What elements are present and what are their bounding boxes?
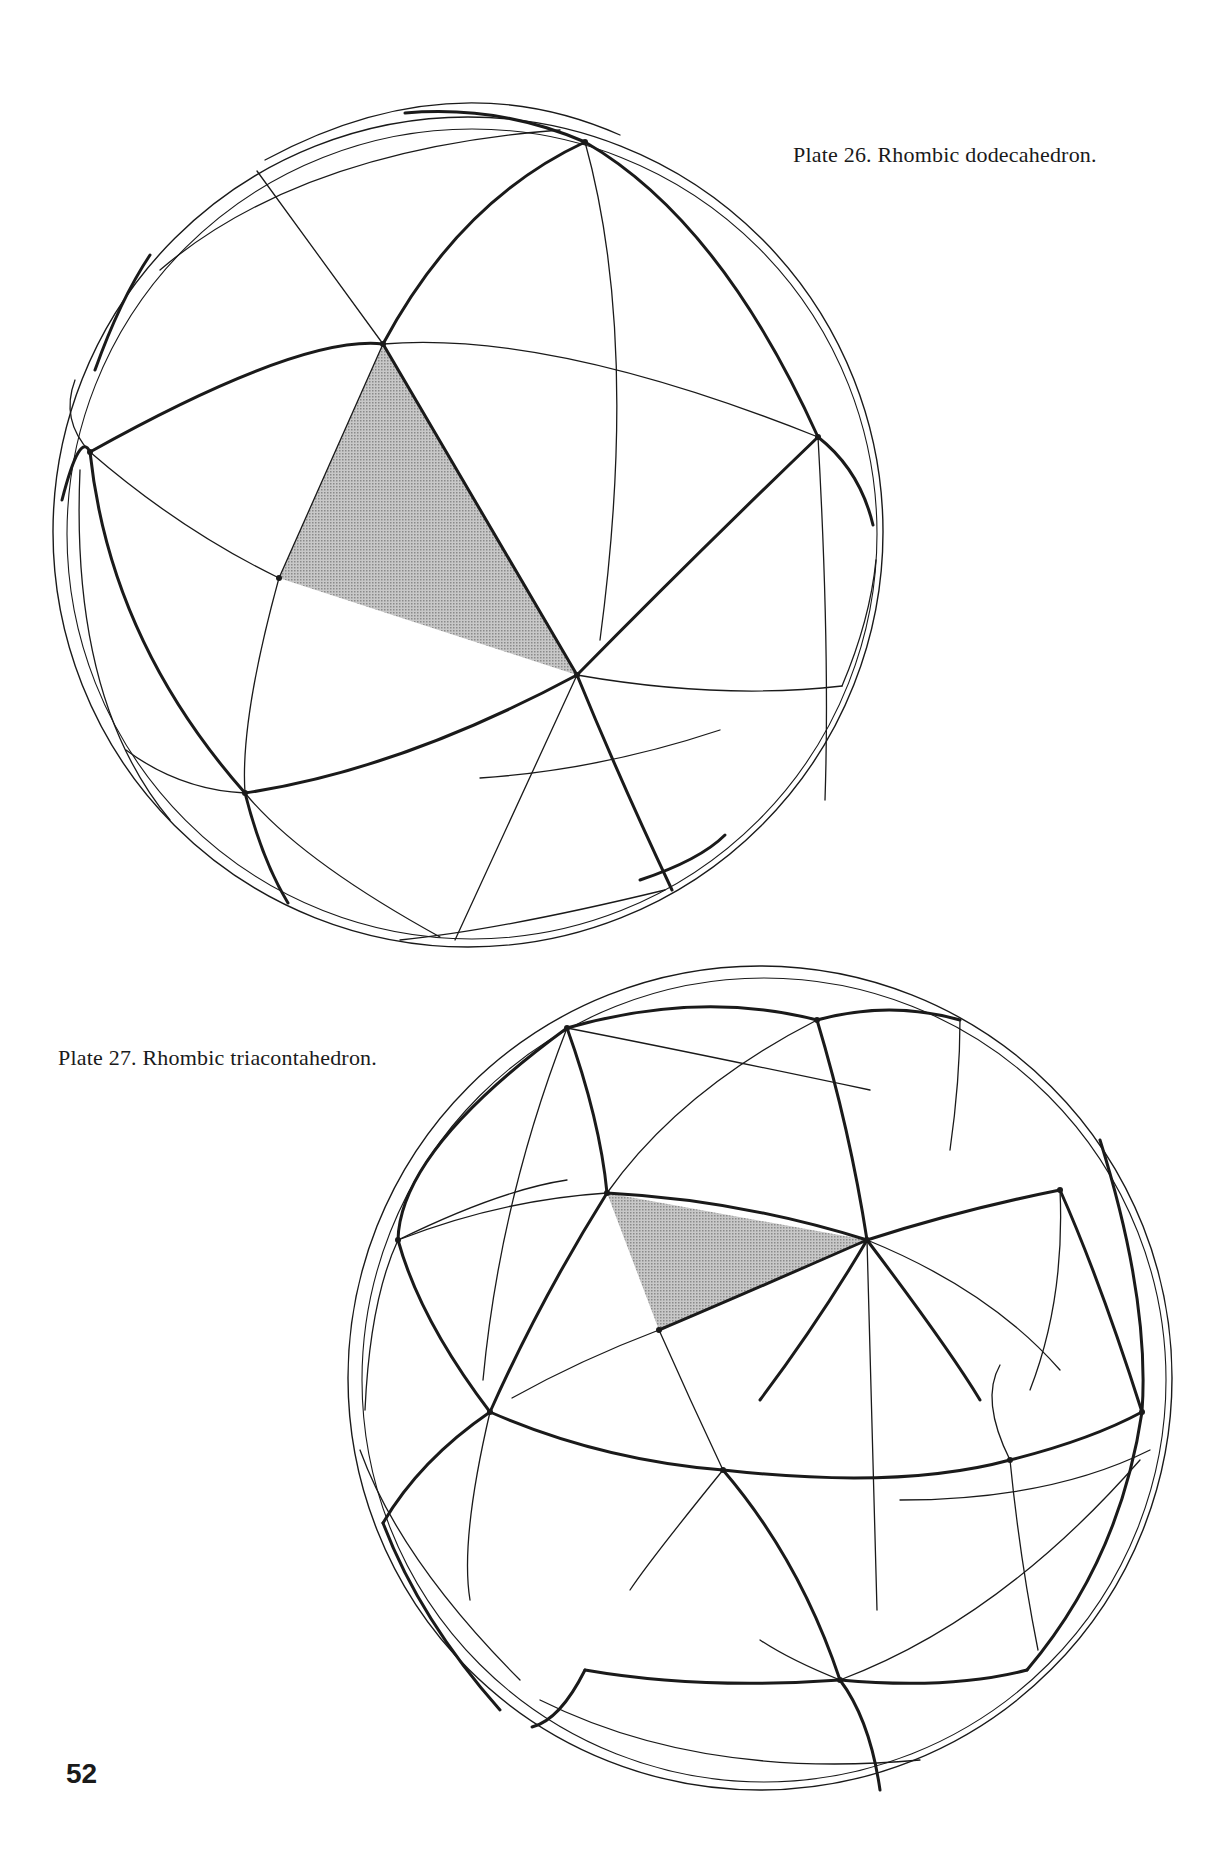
thin-great-circle-arc — [950, 1020, 960, 1150]
polyhedron-edge-arc — [867, 1190, 1060, 1240]
thin-great-circle-arc — [365, 1240, 398, 1410]
polyhedron-edge-arc — [1010, 1412, 1142, 1460]
vertex-dot — [837, 1677, 843, 1683]
vertex-dot — [864, 1237, 870, 1243]
thin-great-circle-arc — [1030, 1190, 1061, 1390]
polyhedron-edge-arc — [640, 835, 725, 880]
sphere-outline — [348, 966, 1172, 1790]
vertex-dot — [656, 1327, 662, 1333]
polyhedron-edge-arc — [840, 1670, 1027, 1683]
vertex-dot — [564, 1025, 570, 1031]
polyhedron-edge-arc — [585, 1670, 840, 1683]
vertex-dot — [815, 434, 821, 440]
thin-great-circle-arc — [455, 675, 577, 940]
vertex-dot — [276, 575, 282, 581]
polyhedron-edge-arc — [817, 1010, 960, 1020]
thin-great-circle-arc — [79, 470, 170, 820]
thin-great-circle-arc — [867, 1240, 1060, 1370]
vertex-dot — [814, 1017, 820, 1023]
thin-great-circle-arc — [540, 1700, 920, 1764]
polyhedron-edge-arc — [245, 675, 577, 793]
vertex-dot — [87, 449, 93, 455]
rhombic-dodecahedron-sphere — [53, 103, 883, 947]
vertex-dot — [720, 1467, 726, 1473]
shaded-face — [607, 1193, 867, 1330]
vertex-dot — [582, 139, 588, 145]
polyhedron-edge-arc — [90, 343, 383, 452]
shaded-face — [279, 344, 577, 675]
thin-great-circle-arc — [659, 1330, 723, 1470]
thin-great-circle-arc — [577, 675, 842, 691]
thin-great-circle-arc — [867, 1240, 877, 1610]
polyhedron-edge-arc — [867, 1240, 980, 1400]
polyhedron-edge-arc — [95, 255, 150, 370]
polyhedron-edge-arc — [398, 1240, 490, 1412]
page-number: 52 — [66, 1758, 97, 1790]
vertex-dot — [574, 672, 580, 678]
thin-great-circle-arc — [70, 380, 90, 452]
polyhedron-edge-arc — [818, 437, 873, 525]
polyhedron-edge-arc — [567, 1028, 607, 1193]
vertex-dot — [1139, 1409, 1145, 1415]
polyhedron-edge-arc — [62, 447, 90, 500]
thin-great-circle-arc — [818, 437, 826, 800]
polyhedron-edge-arc — [567, 1007, 817, 1028]
polyhedron-edge-arc — [383, 1412, 490, 1523]
polyhedron-edge-arc — [532, 1670, 585, 1727]
thin-great-circle-arc — [840, 1460, 1140, 1680]
plate-27-caption: Plate 27. Rhombic triacontahedron. — [58, 1045, 377, 1071]
polyhedron-edge-arc — [577, 675, 672, 890]
thin-great-circle-arc — [244, 578, 279, 793]
polyhedron-edge-arc — [1060, 1190, 1142, 1412]
vertex-dot — [242, 790, 248, 796]
thin-great-circle-arc — [245, 793, 440, 937]
vertex-dot — [1057, 1187, 1063, 1193]
thin-great-circle-arc — [630, 1470, 723, 1590]
vertex-dot — [604, 1190, 610, 1196]
vertex-dot — [1007, 1457, 1013, 1463]
plate-26-caption: Plate 26. Rhombic dodecahedron. — [793, 142, 1097, 168]
thin-great-circle-arc — [360, 1450, 520, 1680]
polyhedron-edge-arc — [723, 1460, 1010, 1478]
polyhedron-edge-arc — [90, 452, 245, 793]
plates-figure — [0, 0, 1226, 1863]
polyhedron-edge-arc — [577, 437, 818, 675]
thin-great-circle-arc — [468, 1412, 491, 1600]
polyhedron-edge-arc — [383, 142, 585, 344]
rhombic-triacontahedron-sphere — [348, 966, 1172, 1790]
thin-great-circle-arc — [512, 1330, 659, 1398]
polyhedron-edge-arc — [490, 1412, 723, 1470]
polyhedron-edge-arc — [585, 142, 818, 437]
vertex-dot — [395, 1237, 401, 1243]
polyhedron-edge-arc — [817, 1020, 867, 1240]
thin-great-circle-arc — [398, 1193, 607, 1240]
book-page: Plate 26. Rhombic dodecahedron. Plate 27… — [0, 0, 1226, 1863]
vertex-dot — [380, 341, 386, 347]
polyhedron-edge-arc — [723, 1470, 840, 1680]
thin-great-circle-arc — [400, 890, 665, 940]
polyhedron-edge-arc — [398, 1028, 567, 1240]
thin-great-circle-arc — [383, 342, 818, 437]
thin-great-circle-arc — [480, 730, 720, 778]
thin-great-circle-arc — [90, 452, 279, 578]
thin-great-circle-arc — [992, 1365, 1010, 1460]
thin-great-circle-arc — [585, 142, 617, 640]
vertex-dot — [487, 1409, 493, 1415]
thin-great-circle-arc — [607, 1020, 817, 1193]
thin-great-circle-arc — [842, 560, 876, 686]
